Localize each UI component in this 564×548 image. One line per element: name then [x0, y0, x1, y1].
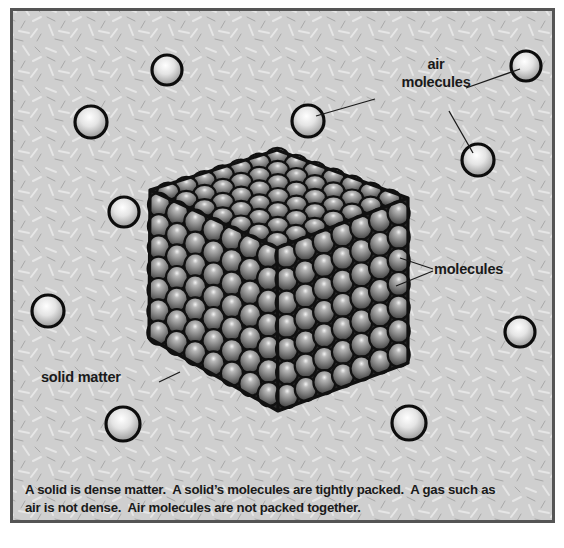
caption-line2: air is not dense. Air molecules are not … [25, 500, 361, 515]
air-molecules-label-line2: molecules [381, 73, 491, 91]
air-molecule [462, 144, 494, 176]
air-molecule [75, 106, 107, 138]
air-molecule [152, 55, 182, 85]
air-molecule [505, 317, 535, 347]
caption-line1: A solid is dense matter. A solid’s molec… [25, 482, 495, 497]
diagram-frame: air molecules molecules solid matter A s… [10, 8, 555, 523]
air-molecule [106, 407, 140, 441]
air-molecule [292, 105, 324, 137]
solid-matter-label: solid matter [41, 369, 121, 386]
air-molecules-label: air molecules [381, 55, 491, 91]
air-molecule [392, 406, 426, 440]
caption: A solid is dense matter. A solid’s molec… [25, 481, 545, 517]
air-molecule [511, 51, 541, 81]
air-molecule [109, 197, 139, 227]
air-molecule [32, 295, 64, 327]
air-molecules-label-line1: air [381, 55, 491, 73]
molecules-label: molecules [434, 261, 503, 278]
